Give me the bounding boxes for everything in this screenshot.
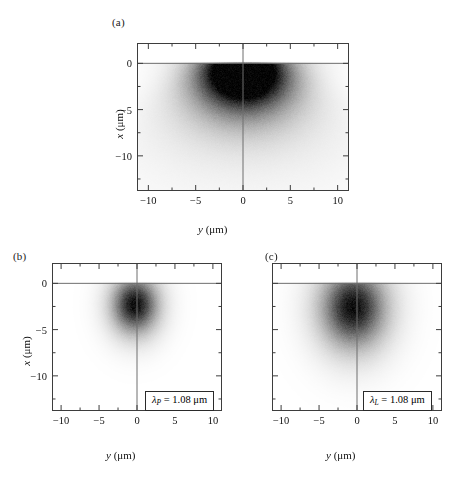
plot-c-xtick-label: −10 [273, 415, 289, 426]
panel-a: (a) −10−505100−5−10 x (μm) y (μm) [0, 0, 465, 240]
panel-c-plot-area: −10−50510 [272, 263, 442, 411]
panel-b-legend-value: 1.08 [172, 394, 190, 405]
plot-c-xtick-label: −5 [313, 415, 324, 426]
panel-a-tag: (a) [112, 16, 125, 28]
panel-c-parameter-legend: λL = 1.08 μm [363, 391, 432, 411]
plot-c-xtick-label: 5 [392, 415, 397, 426]
plot-b-frame: −10−505100−5−10 [52, 263, 222, 411]
panel-a-y-axis-unit: (μm) [113, 109, 125, 131]
plot-c-frame: −10−50510 [272, 263, 442, 411]
plot-a-xtick-label: 5 [288, 195, 293, 206]
plot-a-xtick-label: 0 [240, 195, 245, 206]
panel-a-plot-area: −10−505100−5−10 [137, 43, 349, 191]
plot-a-xtick-label: −10 [140, 195, 156, 206]
plot-a-ytick-label: 0 [107, 58, 132, 69]
plot-b-xtick-label: −10 [53, 415, 69, 426]
panel-a-x-axis-title: y (μm) [198, 223, 227, 235]
plot-b-xtick-label: −5 [93, 415, 104, 426]
plot-c-xtick-label: 0 [354, 415, 359, 426]
figure-root: (a) −10−505100−5−10 x (μm) y (μm) (b) −1… [0, 0, 465, 477]
panel-a-y-axis-title: x (μm) [113, 92, 125, 156]
plot-b-axes-overlay [52, 263, 222, 411]
plot-b-xtick-label: 10 [208, 415, 219, 426]
panel-a-y-axis-symbol: x [113, 134, 125, 139]
panel-b: (b) −10−505100−5−10 x (μm) y (μm) λP = 1… [0, 240, 232, 477]
plot-a-xtick-label: 10 [332, 195, 343, 206]
panel-c-x-axis-title: y (μm) [326, 449, 355, 461]
plot-a-xtick-label: −5 [190, 195, 201, 206]
panel-b-y-axis-unit: (μm) [20, 336, 32, 358]
panel-c-legend-unit: μm [411, 394, 425, 405]
panel-b-y-axis-title: x (μm) [20, 319, 32, 383]
panel-b-parameter-legend: λP = 1.08 μm [145, 391, 214, 411]
panel-b-y-axis-symbol: x [20, 361, 32, 366]
panel-b-plot-area: −10−505100−5−10 [52, 263, 222, 411]
panel-b-x-axis-title: y (μm) [106, 449, 135, 461]
plot-b-xtick-label: 0 [134, 415, 139, 426]
plot-c-axes-overlay [272, 263, 442, 411]
plot-b-ytick-label: 0 [22, 278, 47, 289]
plot-a-frame: −10−505100−5−10 [137, 43, 349, 191]
panel-c-tag: (c) [265, 250, 278, 262]
panel-c-legend-value: 1.08 [390, 394, 408, 405]
panel-c: (c) −10−50510 y (μm) λL = 1.08 μm [232, 240, 465, 477]
panel-b-legend-unit: μm [193, 394, 207, 405]
plot-a-axes-overlay [137, 43, 349, 191]
panel-a-x-axis-unit: (μm) [206, 223, 228, 235]
panel-c-x-axis-unit: (μm) [334, 449, 356, 461]
panel-b-x-axis-unit: (μm) [114, 449, 136, 461]
plot-c-xtick-label: 10 [428, 415, 439, 426]
panel-b-tag: (b) [13, 250, 26, 262]
plot-b-xtick-label: 5 [172, 415, 177, 426]
